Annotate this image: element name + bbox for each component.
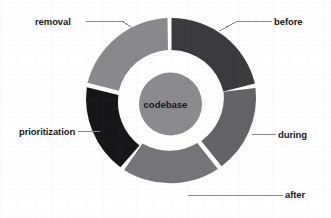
callout-label-before[interactable]: before <box>274 17 302 27</box>
donut-segment-after[interactable] <box>124 143 218 183</box>
callout-label-prioritization[interactable]: prioritization <box>19 127 75 137</box>
callout-label-removal[interactable]: removal <box>35 17 71 27</box>
donut-diagram-figure: removal before during after prioritizati… <box>0 0 331 218</box>
leader-line-before <box>219 21 272 31</box>
donut-segment-during[interactable] <box>201 88 256 166</box>
callout-label-during[interactable]: during <box>278 130 307 140</box>
donut-chart-svg <box>0 0 331 218</box>
callout-label-after[interactable]: after <box>285 190 305 200</box>
center-disc-codebase <box>139 73 202 136</box>
donut-segment-prioritization[interactable] <box>86 87 139 167</box>
